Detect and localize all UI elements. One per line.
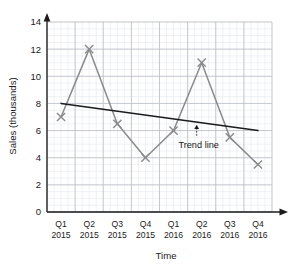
x-tick-label: 2016	[220, 230, 239, 240]
x-tick-label: Q3	[112, 219, 124, 229]
y-tick-labels: 02468101214	[30, 16, 41, 217]
y-axis	[44, 13, 51, 212]
x-tick-label: Q4	[140, 219, 152, 229]
x-tick-label: 2015	[136, 230, 155, 240]
y-tick-label: 0	[36, 206, 41, 217]
x-tick-label: 2015	[52, 230, 71, 240]
x-tick-label: 2016	[164, 230, 183, 240]
y-tick-label: 4	[36, 152, 41, 163]
x-tick-label: Q3	[224, 219, 236, 229]
y-axis-title: Sales (thousands)	[7, 77, 18, 154]
x-tick-label: 2015	[80, 230, 99, 240]
y-tick-label: 14	[30, 16, 41, 27]
y-tick-label: 12	[30, 44, 41, 55]
x-tick-label: Q1	[168, 219, 180, 229]
trend-line-annotation-label: Trend line	[178, 140, 219, 150]
x-tick-label: Q2	[196, 219, 208, 229]
x-axis	[47, 209, 288, 216]
y-tick-label: 6	[36, 125, 41, 136]
x-tick-labels: Q12015Q22015Q32015Q42015Q12016Q22016Q320…	[52, 219, 268, 240]
x-tick-label: 2015	[108, 230, 127, 240]
sales-trend-chart: 02468101214 Q12015Q22015Q32015Q42015Q120…	[0, 0, 295, 268]
y-tick-label: 8	[36, 98, 41, 109]
y-tick-label: 2	[36, 179, 41, 190]
x-axis-title: Time	[156, 250, 177, 261]
x-tick-label: Q1	[55, 219, 67, 229]
x-tick-label: 2016	[248, 230, 267, 240]
x-tick-label: Q2	[83, 219, 95, 229]
chart-canvas: 02468101214 Q12015Q22015Q32015Q42015Q120…	[0, 0, 295, 268]
x-tick-label: Q4	[252, 219, 264, 229]
x-tick-label: 2016	[192, 230, 211, 240]
y-tick-label: 10	[30, 71, 41, 82]
